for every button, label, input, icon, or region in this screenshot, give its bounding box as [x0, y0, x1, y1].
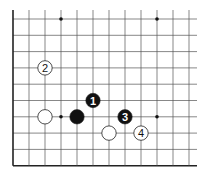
stone-disc — [102, 126, 116, 140]
black-stone-3: 3 — [118, 110, 132, 124]
star-point — [155, 115, 159, 119]
star-point — [59, 115, 63, 119]
go-board: 2134 — [0, 0, 209, 180]
stone-disc — [70, 110, 84, 124]
star-point — [59, 17, 63, 21]
black-stone-1: 1 — [86, 93, 100, 107]
white-stone — [102, 126, 116, 140]
move-number: 3 — [122, 111, 128, 123]
stone-disc — [38, 110, 52, 124]
black-stone — [70, 110, 84, 124]
move-number: 1 — [90, 95, 96, 107]
white-stone — [38, 110, 52, 124]
white-stone-2: 2 — [38, 61, 52, 75]
white-stone-4: 4 — [134, 126, 148, 140]
star-point — [155, 17, 159, 21]
move-number: 2 — [42, 62, 48, 74]
move-number: 4 — [138, 127, 144, 139]
